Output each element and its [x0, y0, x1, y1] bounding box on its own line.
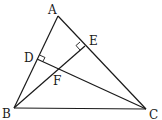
- label-f: F: [53, 74, 61, 88]
- segment-ab: [14, 16, 58, 108]
- label-c: C: [149, 108, 158, 120]
- label-a: A: [47, 3, 57, 17]
- right-angle-marker-e: [76, 42, 80, 50]
- segment-bc: [14, 108, 146, 109]
- label-e: E: [89, 34, 98, 48]
- label-b: B: [2, 107, 11, 120]
- geometry-diagram: A B C D E F: [0, 0, 162, 120]
- label-d: D: [24, 51, 34, 65]
- segment-ca: [58, 16, 146, 109]
